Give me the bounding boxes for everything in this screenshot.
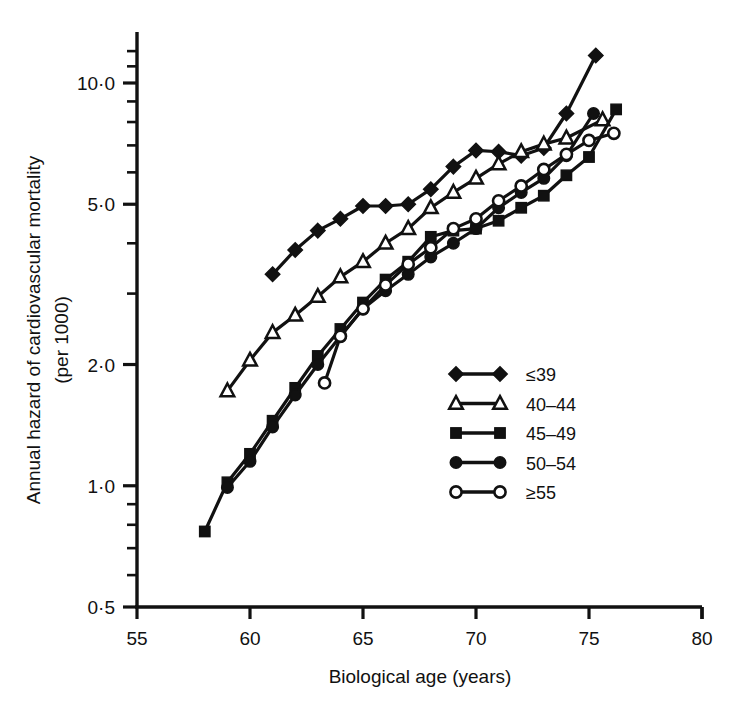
data-point-5-8 xyxy=(470,213,481,224)
data-point-legend-5-b xyxy=(494,486,505,497)
data-point-4-17 xyxy=(588,108,600,120)
data-point-5-3 xyxy=(357,303,368,314)
data-point-legend-3-b xyxy=(495,428,505,438)
y-axis-label-line2: (per 1000) xyxy=(51,296,72,384)
legend-label: 50–54 xyxy=(526,454,576,474)
data-point-5-10 xyxy=(516,180,527,191)
x-axis-label: Biological age (years) xyxy=(329,666,512,687)
x-tick-label: 80 xyxy=(691,628,712,649)
x-tick-label: 65 xyxy=(352,628,373,649)
data-point-4-4 xyxy=(289,389,301,401)
data-point-3-18 xyxy=(584,152,594,162)
data-point-4-5 xyxy=(312,359,324,371)
y-tick-label: 0·5 xyxy=(88,597,115,618)
data-point-4-2 xyxy=(244,456,256,468)
data-point-3-1 xyxy=(200,526,210,536)
data-point-5-2 xyxy=(335,331,346,342)
data-point-legend-4-a xyxy=(450,457,462,469)
x-tick-label: 75 xyxy=(578,628,599,649)
legend-label: ≤39 xyxy=(526,365,556,385)
chart-canvas: 5560657075800·51·02·05·010·0 Annual haza… xyxy=(0,0,734,712)
legend-label: ≥55 xyxy=(526,483,556,503)
y-tick-label: 1·0 xyxy=(88,476,115,497)
data-point-legend-4-b xyxy=(494,457,506,469)
data-point-3-15 xyxy=(516,203,526,213)
data-point-3-16 xyxy=(539,191,549,201)
x-tick-label: 70 xyxy=(465,628,486,649)
data-point-5-11 xyxy=(538,164,549,175)
y-tick-label: 2·0 xyxy=(88,355,115,376)
data-point-5-6 xyxy=(425,242,436,253)
x-tick-label: 55 xyxy=(126,628,147,649)
data-point-5-14 xyxy=(608,128,619,139)
y-tick-label: 10·0 xyxy=(77,73,115,94)
legend-label: 40–44 xyxy=(526,395,576,415)
y-axis-label-line1: Annual hazard of cardiovascular mortalit… xyxy=(23,155,44,504)
data-point-3-19 xyxy=(611,104,621,114)
data-point-4-1 xyxy=(222,482,234,494)
y-tick-label: 5·0 xyxy=(88,194,115,215)
data-point-3-14 xyxy=(493,216,503,226)
chart-figure: 5560657075800·51·02·05·010·0 Annual haza… xyxy=(0,0,734,712)
data-point-5-9 xyxy=(493,195,504,206)
data-point-5-12 xyxy=(561,149,572,160)
data-point-5-13 xyxy=(583,135,594,146)
data-point-legend-5-a xyxy=(450,486,461,497)
legend-label: 45–49 xyxy=(526,424,576,444)
data-point-5-7 xyxy=(448,223,459,234)
data-point-4-11 xyxy=(448,237,460,249)
data-point-5-1 xyxy=(319,377,330,388)
data-point-legend-3-a xyxy=(451,428,461,438)
data-point-5-5 xyxy=(403,259,414,270)
data-point-3-11 xyxy=(426,232,436,242)
data-point-3-17 xyxy=(561,170,571,180)
data-point-5-4 xyxy=(380,279,391,290)
x-tick-label: 60 xyxy=(239,628,260,649)
data-point-4-3 xyxy=(267,421,279,433)
